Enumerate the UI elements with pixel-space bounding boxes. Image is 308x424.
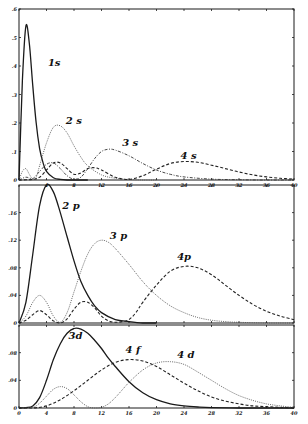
series-2s-curve	[19, 125, 157, 180]
y-tick-label: .6	[12, 6, 18, 12]
x-tick-label: 8	[72, 410, 76, 416]
curve-label: 1s	[48, 57, 61, 68]
y-tick-label: 0	[14, 177, 18, 183]
x-tick-label: 20	[152, 410, 160, 416]
curve-label: 3 p	[110, 230, 127, 241]
series-4d-curve	[19, 362, 294, 408]
y-tick-label: .3	[12, 92, 18, 98]
curve-label: 4 d	[177, 349, 194, 360]
curve-label: 2 p	[61, 200, 79, 211]
series-3d-curve	[19, 328, 294, 408]
y-tick-label: 0	[14, 405, 18, 411]
y-tick-label: .04	[8, 292, 17, 298]
plot-frame	[19, 9, 294, 180]
y-tick-label: .04	[8, 377, 17, 383]
x-tick-label: 28	[207, 410, 215, 416]
curve-label: 2 s	[65, 115, 82, 126]
series-3p-curve	[19, 240, 294, 323]
curve-label: 4p	[177, 251, 191, 262]
y-tick-label: .5	[12, 35, 18, 41]
x-tick-label: 36	[263, 410, 270, 416]
y-tick-label: 0	[14, 320, 18, 326]
y-tick-label: .4	[12, 63, 18, 69]
x-tick-label: 40	[291, 410, 298, 416]
x-tick-label: 12	[98, 410, 105, 416]
curve-label: 3d	[69, 330, 83, 341]
x-tick-label: 32	[236, 410, 243, 416]
panel-p-orbitals: 0.04.08.12.162 p3 p4p	[8, 184, 294, 326]
y-tick-label: .08	[8, 350, 17, 356]
y-tick-label: .1	[12, 149, 17, 155]
series-3s-curve	[19, 149, 294, 180]
radial-distribution-chart: 4812162024283236400.1.2.3.4.5.61s2 s3 s4…	[0, 0, 308, 424]
curve-label: 3 s	[122, 137, 138, 148]
series-4f-curve	[19, 360, 294, 408]
x-tick-label: 4	[45, 410, 49, 416]
plot-frame	[19, 185, 294, 323]
x-tick-label: 0	[17, 410, 21, 416]
series-1s-curve	[19, 25, 88, 180]
y-tick-label: .12	[8, 237, 17, 243]
series-4s-curve	[19, 161, 294, 180]
x-tick-label: 16	[126, 410, 133, 416]
y-tick-label: .2	[12, 120, 18, 126]
curve-label: 4 s	[181, 150, 197, 161]
x-tick-label: 24	[180, 410, 188, 416]
y-tick-label: .16	[8, 210, 17, 216]
panel-d-f-orbitals: 04812162024283236400.04.083d4 f4 d	[8, 325, 298, 416]
curve-label: 4 f	[126, 344, 142, 355]
series-4p-curve	[19, 266, 294, 323]
panel-s-orbitals: 4812162024283236400.1.2.3.4.5.61s2 s3 s4…	[12, 6, 298, 188]
y-tick-label: .08	[8, 265, 17, 271]
